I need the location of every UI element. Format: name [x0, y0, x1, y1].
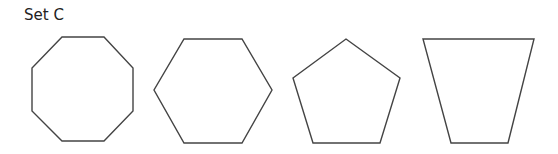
- trapezoid-shape: [423, 39, 534, 143]
- octagon-shape: [32, 37, 133, 141]
- pentagon-shape: [293, 39, 400, 143]
- hexagon-shape: [154, 39, 272, 143]
- shapes-canvas: [0, 0, 558, 154]
